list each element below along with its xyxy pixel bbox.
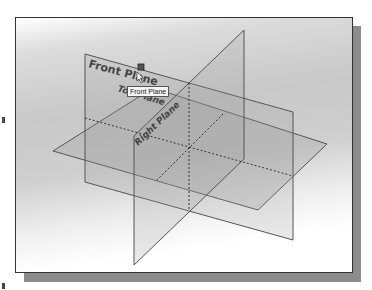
plane-tooltip: Front Plane: [127, 86, 169, 97]
page-margin-mark: [2, 283, 5, 289]
page-margin-mark: [2, 117, 5, 123]
datum-planes-scene[interactable]: Front Plane Top Plane Right Plane: [16, 18, 353, 273]
square-handle-icon[interactable]: [138, 64, 144, 70]
graphics-viewport[interactable]: Front Plane Top Plane Right Plane Front …: [15, 17, 353, 273]
